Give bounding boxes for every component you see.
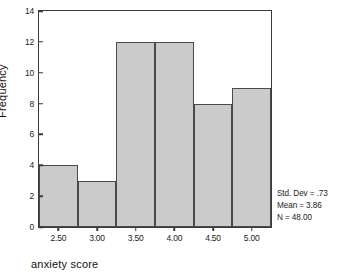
y-axis-title: Frequency [0, 64, 8, 118]
histogram-bar [39, 165, 78, 227]
y-tick-mark [39, 195, 43, 197]
y-tick-label: 2 [29, 191, 39, 201]
x-tick-mark [212, 227, 214, 231]
histogram-bar [155, 42, 194, 227]
y-tick-label: 14 [25, 6, 39, 16]
y-tick-label: 0 [29, 222, 39, 232]
y-tick-label: 4 [29, 160, 39, 170]
std-dev-text: Std. Dev = .73 [277, 188, 328, 200]
y-tick-mark [39, 103, 43, 105]
y-tick-label: 10 [25, 68, 39, 78]
x-tick-label: 4.50 [205, 233, 221, 243]
y-tick-mark [39, 72, 43, 74]
y-tick-mark [39, 41, 43, 43]
x-tick-mark [96, 227, 98, 231]
y-tick-mark [39, 226, 43, 228]
y-tick-mark [39, 10, 43, 12]
x-tick-mark [251, 227, 253, 231]
bars-layer [39, 11, 271, 227]
x-tick-label: 2.50 [50, 233, 66, 243]
histogram-bar [78, 181, 117, 227]
y-tick-label: 12 [25, 37, 39, 47]
y-tick-mark [39, 165, 43, 167]
x-tick-label: 4.00 [166, 233, 182, 243]
x-axis-title: anxiety score [31, 258, 98, 270]
plot-area: 024681012142.503.003.504.004.505.00 [38, 10, 272, 228]
y-tick-label: 6 [29, 129, 39, 139]
statistics-annotation: Std. Dev = .73 Mean = 3.86 N = 48.00 [277, 188, 328, 225]
x-tick-mark [135, 227, 137, 231]
histogram-bar [232, 88, 271, 227]
x-tick-label: 3.50 [128, 233, 144, 243]
mean-text: Mean = 3.86 [277, 200, 328, 212]
n-text: N = 48.00 [277, 212, 328, 224]
histogram-bar [194, 104, 233, 227]
x-tick-mark [174, 227, 176, 231]
histogram-bar [116, 42, 155, 227]
x-tick-label: 3.00 [89, 233, 105, 243]
x-tick-mark [58, 227, 60, 231]
histogram-chart: Frequency 024681012142.503.003.504.004.5… [0, 0, 338, 280]
x-tick-label: 5.00 [244, 233, 260, 243]
y-tick-mark [39, 134, 43, 136]
y-tick-label: 8 [29, 99, 39, 109]
